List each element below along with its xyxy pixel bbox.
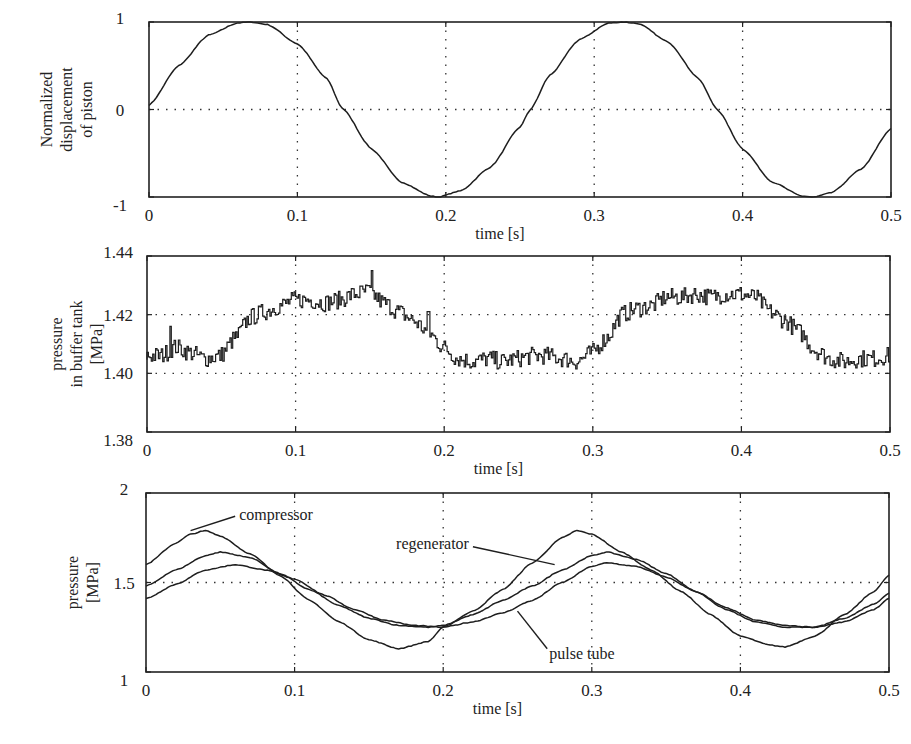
x-tick-label: 0.5 <box>878 681 899 700</box>
y-tick-label: 1.38 <box>103 431 133 450</box>
y-axis-label: in buffer tank <box>68 301 85 388</box>
y-axis-label: displacement <box>58 67 76 152</box>
y-tick-label: 1 <box>120 671 129 690</box>
y-tick-label: 0 <box>116 101 125 120</box>
x-tick-label: 0 <box>145 206 154 225</box>
x-tick-label: 0.2 <box>433 681 454 700</box>
y-tick-label: 1.5 <box>113 574 134 593</box>
figure: 00.10.20.30.40.5-101time [s]Normalizeddi… <box>0 0 911 744</box>
plot-frame <box>147 256 890 432</box>
x-axis-label: time [s] <box>473 700 522 717</box>
x-tick-label: 0.1 <box>287 206 308 225</box>
displacement-plot: 00.10.20.30.40.5-101time [s]Normalizeddi… <box>38 9 902 242</box>
y-tick-label: -1 <box>113 196 127 215</box>
y-axis-label: [MPa] <box>88 324 105 365</box>
x-axis-label: time [s] <box>475 225 524 242</box>
annotation-regenerator: regenerator <box>396 535 470 553</box>
y-tick-label: 2 <box>120 480 129 499</box>
x-tick-label: 0.5 <box>879 441 900 460</box>
y-axis-label: of piston <box>78 81 96 137</box>
buffer-pressure-trace <box>147 271 890 369</box>
x-tick-label: 0.1 <box>284 681 305 700</box>
regenerator-trace <box>146 552 889 628</box>
annotation-leader <box>191 516 236 530</box>
x-tick-label: 0.4 <box>730 681 752 700</box>
annotation-leader <box>518 611 548 649</box>
x-tick-label: 0.3 <box>584 206 605 225</box>
x-tick-label: 0.1 <box>285 441 306 460</box>
annotation-pulse-tube: pulse tube <box>549 645 614 663</box>
y-tick-label: 1 <box>116 9 125 28</box>
pulse-tube-trace <box>146 563 889 628</box>
x-tick-label: 0 <box>142 681 151 700</box>
annotation-compressor: compressor <box>239 506 313 524</box>
x-tick-label: 0.2 <box>435 206 456 225</box>
x-tick-label: 0 <box>143 441 152 460</box>
y-axis-label: Normalized <box>38 72 55 148</box>
x-tick-label: 0.2 <box>434 441 455 460</box>
pressure-comparison-plot: 00.10.20.30.40.511.52time [s]pressure[MP… <box>64 480 900 717</box>
y-tick-label: 1.40 <box>103 364 133 383</box>
y-tick-label: 1.42 <box>103 306 133 325</box>
buffer-tank-pressure-plot: 00.10.20.30.40.51.381.401.421.44time [s]… <box>48 243 901 477</box>
x-tick-label: 0.3 <box>581 681 602 700</box>
y-axis-label: pressure <box>48 317 66 370</box>
y-tick-label: 1.44 <box>103 243 133 262</box>
x-axis-label: time [s] <box>474 460 523 477</box>
x-tick-label: 0.4 <box>732 206 754 225</box>
x-tick-label: 0.4 <box>731 441 753 460</box>
y-axis-label: [MPa] <box>84 562 101 603</box>
x-tick-label: 0.3 <box>582 441 603 460</box>
y-axis-label: pressure <box>64 556 82 609</box>
x-tick-label: 0.5 <box>880 206 901 225</box>
compressor-trace <box>146 530 889 649</box>
